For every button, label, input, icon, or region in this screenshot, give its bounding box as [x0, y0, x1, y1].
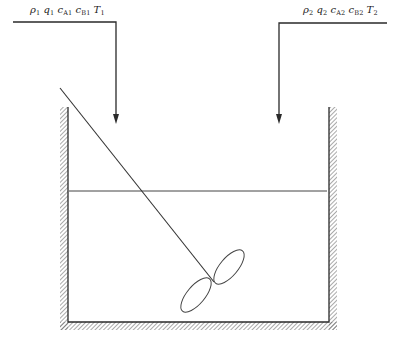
inlet-1-conc-a: cA1 [57, 4, 72, 17]
inlet-2-density: ρ2 [303, 4, 313, 17]
impeller-blade-upper [209, 245, 250, 289]
inlet-1-temp: T1 [94, 4, 105, 17]
inlet-2-label: ρ2q2cA2cB2T2 [303, 4, 381, 17]
inlet-2-conc-b: cB2 [348, 4, 363, 17]
inlet-1-conc-b: cB1 [75, 4, 90, 17]
arrow-down-icon [113, 114, 119, 124]
cstr-diagram [0, 0, 401, 341]
inlet-2-conc-a: cA2 [330, 4, 345, 17]
inlet-2-flow: q2 [316, 4, 327, 17]
inlet-1-density: ρ1 [30, 4, 40, 17]
inlet-1-label: ρ1q1cA1cB1T1 [30, 4, 108, 17]
inlet-1-flow: q1 [43, 4, 54, 17]
impeller [176, 245, 250, 317]
tank [68, 107, 329, 322]
inlet-2-temp: T2 [367, 4, 378, 17]
impeller-blade-lower [176, 273, 217, 317]
agitator-shaft [60, 88, 214, 282]
arrow-down-icon [276, 114, 282, 124]
